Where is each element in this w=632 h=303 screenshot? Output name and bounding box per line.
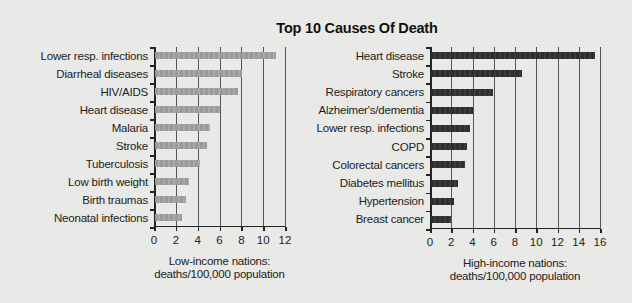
y-tick <box>150 101 154 103</box>
gridline <box>600 47 601 229</box>
category-label: Breast cancer <box>356 213 424 225</box>
bar <box>431 89 493 96</box>
x-tick <box>198 227 200 231</box>
y-tick <box>150 83 154 85</box>
bar <box>431 180 458 187</box>
y-tick <box>150 47 154 49</box>
x-axis-title-line: Low-income nations: <box>114 255 325 268</box>
x-tick <box>451 229 453 233</box>
y-tick <box>150 137 154 139</box>
bar <box>431 198 454 205</box>
category-label: Diabetes mellitus <box>340 177 424 189</box>
category-label: Respiratory cancers <box>326 86 424 98</box>
x-axis-title-line: deaths/100,000 population <box>390 270 632 283</box>
gridline <box>263 47 264 227</box>
x-tick <box>430 229 432 233</box>
gridline <box>579 47 580 229</box>
bar <box>155 160 200 167</box>
x-tick-label: 6 <box>491 236 497 248</box>
x-tick-label: 12 <box>279 234 292 246</box>
bar <box>155 196 186 203</box>
gridline <box>285 47 286 227</box>
category-label: Malaria <box>112 122 148 134</box>
bar <box>155 214 182 221</box>
category-label: Stroke <box>392 68 424 80</box>
x-axis <box>430 228 600 230</box>
x-tick <box>241 227 243 231</box>
x-tick-label: 8 <box>238 234 244 246</box>
x-tick <box>494 229 496 233</box>
x-tick-label: 0 <box>427 236 433 248</box>
bar <box>431 107 473 114</box>
y-tick <box>426 83 430 85</box>
x-tick-label: 14 <box>572 236 585 248</box>
category-label: Alzheimer's/dementia <box>318 104 424 116</box>
x-tick <box>263 227 265 231</box>
plot-area: 024681012Lower resp. infectionsDiarrheal… <box>154 47 285 227</box>
category-label: Diarrheal diseases <box>56 68 148 80</box>
category-label: COPD <box>392 141 424 153</box>
x-axis-title: Low-income nations:deaths/100,000 popula… <box>114 255 325 281</box>
x-tick <box>558 229 560 233</box>
y-tick <box>426 211 430 213</box>
bar <box>155 124 210 131</box>
bar <box>155 178 189 185</box>
y-tick <box>426 102 430 104</box>
category-label: Neonatal infections <box>54 212 148 224</box>
x-tick <box>473 229 475 233</box>
x-tick-label: 10 <box>257 234 270 246</box>
bar <box>431 143 467 150</box>
x-tick <box>220 227 222 231</box>
bar <box>431 161 465 168</box>
y-tick <box>150 119 154 121</box>
y-tick <box>150 65 154 67</box>
y-tick <box>426 156 430 158</box>
category-label: Lower resp. infections <box>317 122 424 134</box>
category-label: Hypertension <box>359 195 424 207</box>
category-label: Lower resp. infections <box>41 50 148 62</box>
bar <box>155 70 242 77</box>
x-axis-title-line: deaths/100,000 population <box>114 268 325 281</box>
x-tick-label: 12 <box>551 236 564 248</box>
x-tick <box>285 227 287 231</box>
bar <box>431 52 595 59</box>
x-tick-label: 16 <box>594 236 607 248</box>
chart-title: Top 10 Causes Of Death <box>0 20 632 36</box>
gridline <box>536 47 537 229</box>
category-label: Heart disease <box>80 104 148 116</box>
gridline <box>558 47 559 229</box>
bar <box>431 70 522 77</box>
x-tick-label: 2 <box>448 236 454 248</box>
y-tick <box>426 120 430 122</box>
y-tick <box>150 227 154 229</box>
category-label: HIV/AIDS <box>100 86 148 98</box>
x-tick <box>154 227 156 231</box>
category-label: Stroke <box>116 140 148 152</box>
plot-area: 0246810121416Heart diseaseStrokeRespirat… <box>430 47 600 229</box>
x-tick <box>515 229 517 233</box>
bar <box>155 88 238 95</box>
y-tick <box>150 155 154 157</box>
y-tick <box>150 209 154 211</box>
x-tick <box>579 229 581 233</box>
category-label: Tuberculosis <box>86 158 148 170</box>
x-tick-label: 8 <box>512 236 518 248</box>
category-label: Birth traumas <box>82 194 148 206</box>
category-label: Low birth weight <box>68 176 148 188</box>
x-tick-label: 4 <box>194 234 200 246</box>
bar <box>155 106 220 113</box>
bar <box>431 125 470 132</box>
y-tick <box>426 47 430 49</box>
x-axis <box>154 226 285 228</box>
y-tick <box>426 193 430 195</box>
x-tick <box>176 227 178 231</box>
x-axis-title-line: High-income nations: <box>390 257 632 270</box>
y-tick <box>426 65 430 67</box>
bar <box>431 216 451 223</box>
x-tick-label: 10 <box>530 236 543 248</box>
y-tick <box>426 174 430 176</box>
x-tick <box>536 229 538 233</box>
x-tick-label: 2 <box>173 234 179 246</box>
y-tick <box>426 229 430 231</box>
bar <box>155 52 276 59</box>
